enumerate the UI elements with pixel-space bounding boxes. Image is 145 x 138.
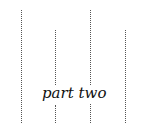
dotted-line-2-upper xyxy=(55,30,56,85)
dotted-line-4 xyxy=(125,30,126,123)
dotted-line-1 xyxy=(21,10,22,123)
dotted-line-3-upper xyxy=(90,10,91,85)
dotted-line-2-lower xyxy=(55,105,56,123)
dotted-line-3-lower xyxy=(90,104,91,123)
part-label: part two xyxy=(42,84,106,102)
